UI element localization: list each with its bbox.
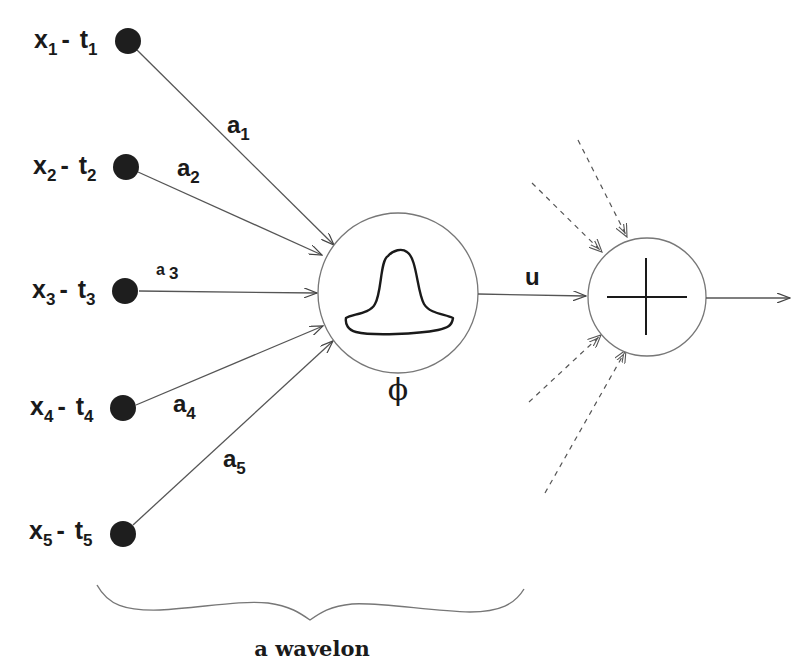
weight-label-2: a2: [177, 154, 200, 187]
weight-label-4: a4: [173, 390, 196, 423]
input-label-5: x5-t5: [29, 516, 93, 550]
input-node-3: [112, 278, 138, 304]
diagram-caption: a wavelon: [254, 636, 369, 661]
summation-node: [588, 238, 706, 356]
input-node-5: [110, 521, 136, 547]
edge-3: [139, 291, 317, 293]
edge-4: [136, 326, 323, 405]
edge-label-u: u: [525, 263, 540, 290]
weight-label-1: a1: [227, 111, 250, 144]
dashed-edge-2: [532, 183, 602, 252]
dashed-edge-1: [578, 140, 627, 237]
wavelon-diagram: x1-t1 x2-t2 x3-t3 x4-t4 x5-t5 a1 a2 a3 a…: [0, 0, 808, 671]
activation-symbol: ϕ: [388, 372, 408, 407]
output-edge-u: u: [478, 263, 586, 296]
input-node-1: [115, 28, 141, 54]
input-label-4: x4-t4: [30, 392, 94, 426]
input-label-3: x3-t3: [32, 275, 96, 309]
edge-2: [138, 172, 322, 255]
input-nodes: [110, 28, 141, 547]
weight-label-5: a5: [223, 445, 246, 478]
input-label-1: x1-t1: [34, 25, 98, 59]
input-label-2: x2-t2: [33, 151, 97, 185]
input-node-4: [110, 395, 136, 421]
input-node-2: [113, 154, 139, 180]
edge-5: [133, 341, 333, 525]
weight-labels: a1 a2 a3 a4 a5: [156, 111, 250, 478]
input-labels: x1-t1 x2-t2 x3-t3 x4-t4 x5-t5: [29, 25, 98, 550]
wavelon-circle: [318, 213, 478, 373]
weight-label-3: a3: [156, 261, 178, 283]
wavelon-brace: [97, 585, 524, 620]
wavelon-node: ϕ: [318, 213, 478, 407]
dashed-edge-4: [545, 350, 626, 493]
dashed-edge-3: [529, 335, 601, 402]
